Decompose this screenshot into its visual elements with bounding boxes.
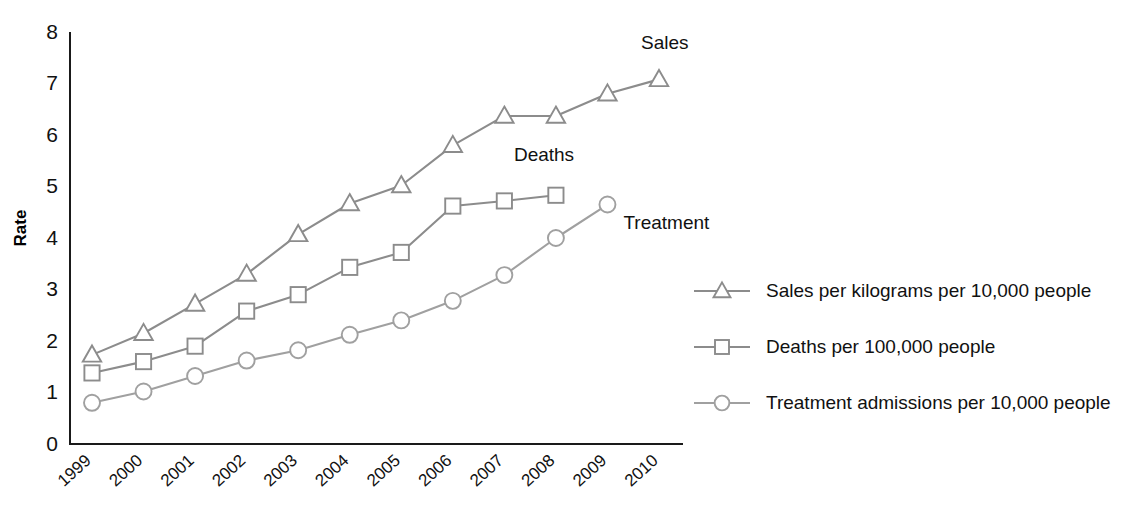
x-tick-label: 2007	[466, 451, 507, 490]
series-line-sales	[92, 79, 659, 355]
square-marker-icon	[548, 188, 563, 203]
triangle-marker-icon	[495, 107, 513, 123]
legend-label-sales: Sales per kilograms per 10,000 people	[766, 280, 1091, 301]
x-axis-tick-labels: 1999200020012002200320042005200620072008…	[54, 451, 662, 490]
x-tick-label: 2001	[157, 451, 198, 490]
triangle-marker-icon	[237, 265, 255, 281]
triangle-marker-icon	[83, 346, 101, 362]
y-axis-title: Rate	[11, 210, 30, 247]
triangle-marker-icon	[392, 176, 410, 192]
y-axis-tick-labels: 012345678	[46, 20, 58, 455]
y-tick-label: 3	[46, 277, 58, 300]
y-tick-label: 8	[46, 20, 58, 43]
x-tick-label: 2008	[518, 451, 559, 490]
x-tick-label: 2003	[260, 451, 301, 490]
x-tick-label: 2006	[415, 451, 456, 490]
square-marker-icon	[239, 304, 254, 319]
circle-marker-icon	[715, 396, 730, 411]
circle-marker-icon	[342, 327, 358, 343]
triangle-marker-icon	[547, 107, 565, 123]
square-marker-icon	[342, 260, 357, 275]
square-marker-icon	[136, 354, 151, 369]
axis-lines	[70, 32, 683, 444]
triangle-marker-icon	[650, 70, 668, 86]
annotation-deaths: Deaths	[514, 144, 574, 165]
y-tick-label: 6	[46, 123, 58, 146]
x-tick-label: 2005	[363, 451, 404, 490]
y-tick-label: 0	[46, 432, 58, 455]
y-tick-label: 2	[46, 329, 58, 352]
y-axis-title-label: Rate	[11, 210, 30, 247]
square-marker-icon	[445, 198, 460, 213]
square-marker-icon	[187, 339, 202, 354]
series-treatment	[84, 197, 615, 411]
circle-marker-icon	[239, 353, 255, 369]
triangle-marker-icon	[714, 282, 731, 297]
series-sales	[83, 70, 668, 362]
x-tick-label: 2004	[312, 451, 353, 490]
x-tick-label: 2010	[621, 451, 662, 490]
square-marker-icon	[84, 365, 99, 380]
legend-item-treatment[interactable]: Treatment admissions per 10,000 people	[694, 392, 1111, 413]
x-tick-label: 2009	[569, 451, 610, 490]
circle-marker-icon	[393, 312, 409, 328]
legend-item-sales[interactable]: Sales per kilograms per 10,000 people	[694, 280, 1091, 301]
triangle-marker-icon	[134, 324, 152, 340]
y-tick-label: 7	[46, 71, 58, 94]
circle-marker-icon	[84, 395, 100, 411]
triangle-marker-icon	[186, 295, 204, 311]
square-marker-icon	[497, 193, 512, 208]
legend-label-deaths: Deaths per 100,000 people	[766, 336, 995, 357]
y-tick-label: 4	[46, 226, 58, 249]
chart-legend: Sales per kilograms per 10,000 peopleDea…	[694, 280, 1111, 413]
circle-marker-icon	[445, 293, 461, 309]
line-chart: 012345678 199920002001200220032004200520…	[0, 0, 1146, 526]
square-marker-icon	[715, 340, 729, 354]
square-marker-icon	[291, 287, 306, 302]
series-line-treatment	[92, 205, 607, 403]
circle-marker-icon	[290, 342, 306, 358]
triangle-marker-icon	[289, 225, 307, 241]
x-tick-label: 2000	[105, 451, 146, 490]
x-tick-label: 2002	[208, 451, 249, 490]
series-deaths	[84, 188, 563, 381]
x-tick-label: 1999	[54, 451, 95, 490]
circle-marker-icon	[548, 230, 564, 246]
y-tick-label: 1	[46, 380, 58, 403]
annotation-treatment: Treatment	[623, 212, 710, 233]
chart-figure: 012345678 199920002001200220032004200520…	[0, 0, 1146, 526]
circle-marker-icon	[496, 267, 512, 283]
data-series-group	[83, 70, 668, 411]
legend-item-deaths[interactable]: Deaths per 100,000 people	[694, 336, 995, 357]
y-tick-label: 5	[46, 174, 58, 197]
chart-axes	[70, 32, 683, 444]
square-marker-icon	[394, 245, 409, 260]
circle-marker-icon	[136, 383, 152, 399]
circle-marker-icon	[599, 197, 615, 213]
circle-marker-icon	[187, 368, 203, 384]
legend-label-treatment: Treatment admissions per 10,000 people	[766, 392, 1111, 413]
triangle-marker-icon	[444, 136, 462, 152]
annotation-sales: Sales	[641, 32, 689, 53]
